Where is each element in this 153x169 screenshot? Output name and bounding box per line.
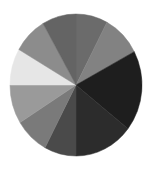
pie-chart-svg <box>0 0 153 169</box>
pie-chart <box>0 0 153 169</box>
